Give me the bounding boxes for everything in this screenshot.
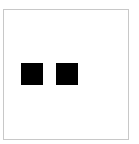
- black-square-1[interactable]: [21, 63, 43, 85]
- black-square-2[interactable]: [56, 63, 78, 85]
